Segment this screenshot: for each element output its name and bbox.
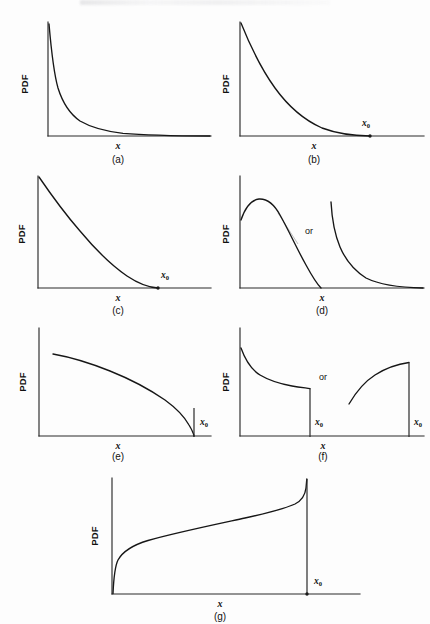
panel-g-x0-marker [305,592,308,595]
panel-a-y-label: PDF [19,74,30,94]
panel-g-axes [112,478,360,594]
panel-e-x-label: x [115,440,121,451]
panel-c-y-label: PDF [16,224,27,244]
scan-header-artifact [80,0,330,5]
panel-f-or-label: or [319,372,327,382]
panel-c-caption: (c) [112,305,124,316]
panel-d-or-label: or [305,226,313,236]
panel-a-curve [49,24,210,136]
panel-d-x-label: x [319,292,325,303]
panel-e-curve [53,354,194,436]
panel-f-left-x0-label: x0 [314,417,323,428]
panel-a-x-label: x [115,140,121,151]
panel-f-curve-truncated-decay [241,348,310,389]
panel-c-curve [39,177,158,288]
panel-d-caption: (d) [316,305,328,316]
panel-g-x-label: x [217,598,223,609]
panel-b-curve [241,23,370,136]
panel-f-y-label: PDF [220,372,231,392]
figure-sheet: PDF x (a) PDF x x0 (b) [0,0,430,624]
panel-d-axes [240,176,424,288]
panel-e: PDF x x0 (e) [8,320,213,462]
panel-b-x0-marker [368,134,371,137]
panel-d-y-label: PDF [220,224,231,244]
panel-d-curve-hump [241,199,321,288]
panel-f-caption: (f) [318,451,327,462]
panel-d-curve-steep-decay [331,202,423,288]
panel-b-axes [240,22,424,136]
panel-a-caption: (a) [112,154,124,165]
panel-g-x0-label: x0 [313,576,322,587]
panel-b-x-label: x [311,140,317,151]
panel-c-x-label: x [115,292,121,303]
panel-c-x0-marker [156,286,159,289]
panel-b-caption: (b) [308,154,320,165]
panel-f-curve-truncated-rise [349,363,409,405]
panel-c: PDF x x0 (c) [8,168,213,316]
panel-f-x-label: x [320,440,326,451]
panel-f-axes [240,328,424,436]
panel-a: PDF x (a) [8,8,213,166]
panel-b: PDF x x0 (b) [218,8,426,166]
panel-g-curve [113,479,307,594]
panel-f-right-x0-label: x0 [413,417,422,428]
panel-a-axes [48,22,211,136]
panel-b-x0-label: x0 [361,118,370,129]
panel-e-x0-label: x0 [199,417,208,428]
panel-f: PDF or x x0 x0 (f) [218,320,426,462]
panel-c-axes [38,176,211,288]
panel-g-y-label: PDF [89,526,100,546]
panel-c-x0-label: x0 [160,270,169,281]
panel-g: PDF x x0 (g) [60,466,380,622]
panel-b-y-label: PDF [220,74,231,94]
panel-e-caption: (e) [112,451,124,462]
panel-e-y-label: PDF [17,372,28,392]
panel-d: PDF or x (d) [218,168,426,316]
panel-g-caption: (g) [214,611,226,622]
